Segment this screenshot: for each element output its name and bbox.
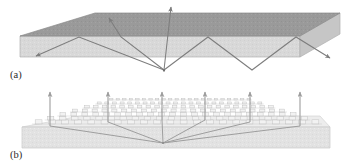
photonic-crystal-pillar bbox=[62, 120, 69, 124]
photonic-crystal-pillar bbox=[240, 98, 243, 100]
photonic-crystal-pillar bbox=[142, 98, 145, 100]
photonic-crystal-pillar bbox=[289, 116, 295, 120]
photonic-crystal-pillar bbox=[114, 120, 121, 124]
photonic-crystal-pillar bbox=[97, 102, 101, 104]
photonic-crystal-pillar bbox=[171, 109, 176, 112]
photonic-crystal-pillar bbox=[234, 106, 239, 108]
figure-container: (a) (b) bbox=[0, 0, 354, 168]
photonic-crystal-pillar bbox=[112, 109, 117, 112]
photonic-crystal-pillar bbox=[84, 116, 90, 120]
photonic-crystal-pillar bbox=[301, 116, 307, 120]
photonic-crystal-pillar bbox=[242, 106, 247, 108]
photonic-crystal-pillar bbox=[167, 120, 174, 124]
photonic-crystal-pillar bbox=[135, 102, 139, 104]
photonic-crystal-pillar bbox=[92, 109, 97, 112]
photonic-crystal-pillar bbox=[251, 106, 256, 108]
photonic-crystal-pillar bbox=[88, 120, 95, 124]
photonic-crystal-pillar bbox=[260, 109, 265, 112]
photonic-crystal-pillar bbox=[85, 106, 90, 108]
photonic-crystal-pillar bbox=[112, 102, 116, 104]
photonic-crystal-pillar bbox=[210, 109, 215, 112]
photonic-crystal-pillar bbox=[102, 106, 107, 108]
photonic-crystal-pillar bbox=[233, 120, 240, 124]
photonic-crystal-pillar bbox=[217, 116, 223, 120]
photonic-crystal-pillar bbox=[225, 106, 230, 108]
photonic-crystal-pillar bbox=[144, 116, 150, 120]
photonic-crystal-pillar bbox=[290, 113, 296, 116]
photonic-crystal-pillar bbox=[243, 102, 247, 104]
photonic-crystal-pillar bbox=[235, 102, 239, 104]
photonic-crystal-pillar bbox=[235, 113, 241, 116]
photonic-crystal-pillar bbox=[102, 109, 107, 112]
photonic-crystal-pillar bbox=[48, 120, 55, 124]
photonic-crystal-pillar bbox=[123, 98, 126, 100]
photonic-crystal-pillar bbox=[212, 102, 216, 104]
photonic-crystal-pillar bbox=[221, 98, 224, 100]
photonic-crystal-pillar bbox=[143, 102, 147, 104]
substrate-front-face bbox=[22, 127, 330, 148]
emission-point-b bbox=[162, 142, 164, 144]
photonic-crystal-pillar bbox=[164, 106, 169, 108]
photonic-crystal-lattice bbox=[32, 98, 322, 124]
photonic-crystal-pillar bbox=[229, 116, 235, 120]
photonic-crystal-pillar bbox=[182, 98, 185, 100]
photonic-crystal-pillar bbox=[199, 106, 204, 108]
photonic-crystal-pillar bbox=[137, 106, 142, 108]
photonic-crystal-pillar bbox=[312, 120, 319, 124]
photonic-crystal-pillar bbox=[268, 113, 274, 116]
photonic-crystal-pillar bbox=[181, 106, 186, 108]
photonic-crystal-pillar bbox=[116, 98, 119, 100]
photonic-crystal-pillar bbox=[208, 98, 211, 100]
photonic-crystal-pillar bbox=[108, 116, 114, 120]
photonic-crystal-pillar bbox=[170, 113, 176, 116]
photonic-crystal-pillar bbox=[141, 120, 148, 124]
photonic-crystal-pillar bbox=[72, 116, 78, 120]
photonic-crystal-pillar bbox=[259, 120, 266, 124]
photonic-crystal-pillar bbox=[277, 116, 283, 120]
photonic-crystal-pillar bbox=[181, 102, 185, 104]
photonic-crystal-pillar bbox=[110, 98, 113, 100]
photonic-crystal-pillar bbox=[214, 113, 220, 116]
photonic-crystal-pillar bbox=[280, 109, 285, 112]
photonic-crystal-pillar bbox=[189, 102, 193, 104]
photonic-crystal-pillar bbox=[250, 109, 255, 112]
photonic-crystal-pillar bbox=[126, 113, 132, 116]
photonic-crystal-pillar bbox=[132, 116, 138, 120]
photonic-crystal-pillar bbox=[155, 106, 160, 108]
panel-a: (a) bbox=[10, 7, 340, 81]
photonic-crystal-pillar bbox=[253, 116, 259, 120]
panel-b-label: (b) bbox=[10, 149, 23, 161]
photonic-crystal-pillar bbox=[71, 113, 77, 116]
photonic-crystal-pillar bbox=[128, 102, 132, 104]
photonic-crystal-pillar bbox=[250, 102, 254, 104]
photonic-crystal-pillar bbox=[132, 109, 137, 112]
photonic-crystal-pillar bbox=[149, 98, 152, 100]
photonic-crystal-pillar bbox=[82, 109, 87, 112]
photonic-crystal-pillar bbox=[234, 98, 237, 100]
photonic-crystal-pillar bbox=[129, 106, 134, 108]
photonic-crystal-pillar bbox=[181, 109, 186, 112]
emission-point-a bbox=[163, 69, 165, 71]
photonic-crystal-pillar bbox=[258, 102, 262, 104]
photonic-crystal-pillar bbox=[60, 116, 66, 120]
photonic-crystal-pillar bbox=[265, 116, 271, 120]
photonic-crystal-pillar bbox=[201, 98, 204, 100]
photonic-crystal-pillar bbox=[286, 120, 293, 124]
photonic-crystal-pillar bbox=[190, 106, 195, 108]
photonic-crystal-pillar bbox=[197, 102, 201, 104]
photonic-crystal-pillar bbox=[120, 116, 126, 120]
photonic-crystal-pillar bbox=[227, 102, 231, 104]
photonic-crystal-pillar bbox=[136, 98, 139, 100]
photonic-crystal-pillar bbox=[122, 109, 127, 112]
photonic-crystal-pillar bbox=[120, 102, 124, 104]
photonic-crystal-pillar bbox=[111, 106, 116, 108]
photonic-crystal-pillar bbox=[93, 113, 99, 116]
photonic-crystal-pillar bbox=[168, 98, 171, 100]
photonic-crystal-pillar bbox=[60, 113, 66, 116]
photonic-crystal-pillar bbox=[141, 109, 146, 112]
photonic-crystal-pillar bbox=[155, 98, 158, 100]
photonic-crystal-pillar bbox=[279, 113, 285, 116]
photonic-crystal-pillar bbox=[120, 106, 125, 108]
photonic-crystal-pillar bbox=[137, 113, 143, 116]
photonic-crystal-pillar bbox=[195, 98, 198, 100]
